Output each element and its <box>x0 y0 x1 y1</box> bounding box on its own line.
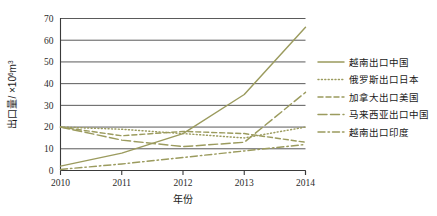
legend-label-2: 加拿大出口美国 <box>349 92 419 103</box>
x-tick-label: 2013 <box>235 178 254 188</box>
legend-label-0: 越南出口中国 <box>349 57 409 68</box>
y-tick-label: 40 <box>44 79 54 89</box>
y-tick-label: 50 <box>44 57 54 67</box>
x-tick-label: 2011 <box>112 178 131 188</box>
y-tick-labels-group: 010203040506070 <box>44 14 54 176</box>
y-tick-label: 70 <box>44 14 54 24</box>
chart-container: 010203040506070 20102011201220132014 越南出… <box>0 0 437 216</box>
series-line-3 <box>61 92 306 146</box>
x-axis-title: 年份 <box>173 193 193 205</box>
legend-label-3: 马来西亚出口中国 <box>349 109 429 120</box>
legend-group: 越南出口中国俄罗斯出口日本加拿大出口美国马来西亚出口中国越南出口印度 <box>318 57 429 138</box>
y-tick-label: 0 <box>49 166 54 176</box>
x-tick-label: 2012 <box>174 178 193 188</box>
y-tick-label: 20 <box>44 122 54 132</box>
legend-label-1: 俄罗斯出口日本 <box>349 74 419 85</box>
y-tick-label: 60 <box>44 36 54 46</box>
series-line-4 <box>61 144 306 169</box>
series-line-0 <box>61 27 306 166</box>
line-chart-svg: 010203040506070 20102011201220132014 越南出… <box>0 0 437 216</box>
y-tick-label: 10 <box>44 144 54 154</box>
legend-label-4: 越南出口印度 <box>349 127 409 138</box>
series-lines-group <box>61 27 306 169</box>
x-tick-label: 2010 <box>51 178 70 188</box>
x-tick-labels-group: 20102011201220132014 <box>51 178 315 188</box>
y-axis-title: 出口量/ ×106m3 <box>6 60 18 129</box>
y-tick-label: 30 <box>44 101 54 111</box>
x-tick-marks-group <box>61 171 306 176</box>
x-tick-label: 2014 <box>296 178 315 188</box>
